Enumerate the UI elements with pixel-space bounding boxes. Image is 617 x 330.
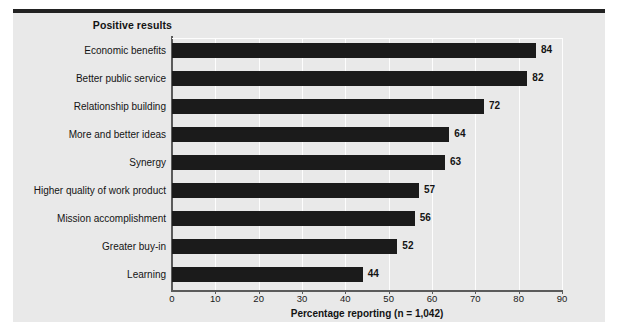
gridline-top — [172, 38, 562, 39]
bar — [172, 43, 536, 58]
plot-area: 848272646357565244 — [172, 38, 562, 290]
x-tick-label: 50 — [383, 293, 394, 304]
category-label: Synergy — [0, 157, 166, 168]
bar — [172, 127, 449, 142]
category-label: Better public service — [0, 73, 166, 84]
category-label: Mission accomplishment — [0, 213, 166, 224]
bar-value-label: 57 — [424, 184, 435, 195]
bar-row: 84 — [172, 43, 562, 58]
x-tick-label: 10 — [210, 293, 221, 304]
x-tick-label: 60 — [427, 293, 438, 304]
gridline — [562, 38, 563, 290]
bar-value-label: 52 — [402, 240, 413, 251]
x-tick-label: 0 — [169, 293, 174, 304]
bar-value-label: 64 — [454, 128, 465, 139]
bar — [172, 71, 527, 86]
bar — [172, 99, 484, 114]
bar-row: 44 — [172, 267, 562, 282]
bar-row: 56 — [172, 211, 562, 226]
bar-row: 52 — [172, 239, 562, 254]
category-label: Economic benefits — [0, 45, 166, 56]
x-tick-label: 70 — [470, 293, 481, 304]
figure: Positive results 848272646357565244 0102… — [0, 0, 617, 330]
bar-row: 72 — [172, 99, 562, 114]
category-label: Higher quality of work product — [0, 185, 166, 196]
bar-row: 57 — [172, 183, 562, 198]
chart-title: Positive results — [0, 19, 172, 31]
bar-row: 63 — [172, 155, 562, 170]
bar — [172, 239, 397, 254]
category-label: More and better ideas — [0, 129, 166, 140]
bar-value-label: 63 — [450, 156, 461, 167]
bar-row: 64 — [172, 127, 562, 142]
category-label: Relationship building — [0, 101, 166, 112]
bar — [172, 211, 415, 226]
bar — [172, 183, 419, 198]
x-tick-label: 40 — [340, 293, 351, 304]
x-axis-title: Percentage reporting (n = 1,042) — [172, 308, 562, 319]
bar — [172, 267, 363, 282]
bar-value-label: 56 — [420, 212, 431, 223]
bar — [172, 155, 445, 170]
bar-value-label: 82 — [532, 72, 543, 83]
category-label: Learning — [0, 269, 166, 280]
top-divider-rule — [13, 9, 605, 13]
bar-row: 82 — [172, 71, 562, 86]
x-tick-label: 90 — [557, 293, 568, 304]
bar-value-label: 44 — [368, 268, 379, 279]
category-label: Greater buy-in — [0, 241, 166, 252]
x-tick-label: 30 — [297, 293, 308, 304]
bar-value-label: 84 — [541, 44, 552, 55]
bar-value-label: 72 — [489, 100, 500, 111]
x-tick-label: 80 — [513, 293, 524, 304]
x-tick-label: 20 — [253, 293, 264, 304]
x-axis-line — [171, 290, 563, 292]
